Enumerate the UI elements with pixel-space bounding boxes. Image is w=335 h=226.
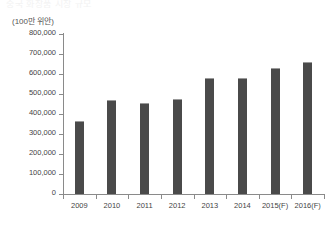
y-axis-tick-label: 400,000 [29,108,56,117]
x-axis-tick-mark [63,194,64,199]
x-axis-tick-mark [259,194,260,199]
bar [75,121,84,194]
x-axis-tick-label: 2014 [234,201,251,210]
x-axis-tick-mark [128,194,129,199]
y-axis-tick-label: 500,000 [29,88,56,97]
x-axis-tick-mark [291,194,292,199]
bar-chart: 중국 화장품 시장 규모 (100만 위안) 0100,000200,00030… [0,0,335,226]
x-axis-tick-mark [324,194,325,199]
x-axis-tick-label: 2009 [71,201,88,210]
x-axis-tick-label: 2016(F) [295,201,321,210]
y-axis-tick-label: 100,000 [29,168,56,177]
x-axis-tick-mark [161,194,162,199]
bar [107,100,116,194]
y-axis-tick-label: 600,000 [29,68,56,77]
bar [238,78,247,194]
y-axis-unit-label: (100만 위안) [12,15,54,26]
x-axis-tick-label: 2015(F) [262,201,288,210]
x-axis-tick-label: 2012 [169,201,186,210]
y-axis-tick-label: 0 [52,188,56,197]
bar [140,103,149,194]
x-axis-tick-label: 2013 [201,201,218,210]
x-axis-tick-mark [226,194,227,199]
x-axis-tick-label: 2010 [104,201,121,210]
bar [173,99,182,194]
x-axis-tick-mark [194,194,195,199]
y-axis-tick-label: 200,000 [29,148,56,157]
y-axis-tick-label: 300,000 [29,128,56,137]
x-axis-tick-mark [96,194,97,199]
y-axis-tick-label: 700,000 [29,48,56,57]
x-axis-tick-label: 2011 [136,201,152,210]
bar [303,62,312,194]
bar [205,78,214,194]
bar [271,68,280,194]
y-axis-tick-label: 800,000 [29,28,56,37]
clipped-title-strip: 중국 화장품 시장 규모 [6,0,166,8]
plot-area [63,34,324,194]
